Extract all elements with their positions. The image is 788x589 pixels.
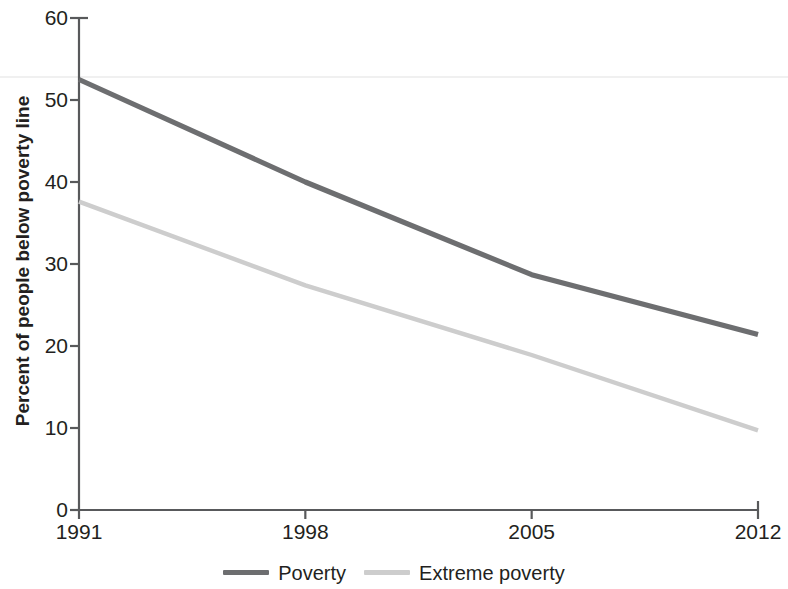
axis-lines — [79, 18, 758, 510]
legend-label-poverty: Poverty — [278, 563, 346, 583]
chart-legend: Poverty Extreme poverty — [0, 556, 788, 589]
plot-area — [0, 0, 788, 589]
data-series — [79, 80, 758, 431]
line-chart: Percent of people below poverty line 010… — [0, 0, 788, 589]
legend-label-extreme-poverty: Extreme poverty — [419, 563, 565, 583]
series-line-poverty — [79, 80, 758, 335]
axis-ticks — [70, 18, 758, 519]
series-line-extreme-poverty — [79, 202, 758, 431]
legend-entry-extreme-poverty: Extreme poverty — [364, 563, 565, 583]
legend-swatch-extreme-poverty — [364, 570, 410, 575]
legend-entry-poverty: Poverty — [223, 563, 346, 583]
legend-swatch-poverty — [223, 570, 269, 575]
